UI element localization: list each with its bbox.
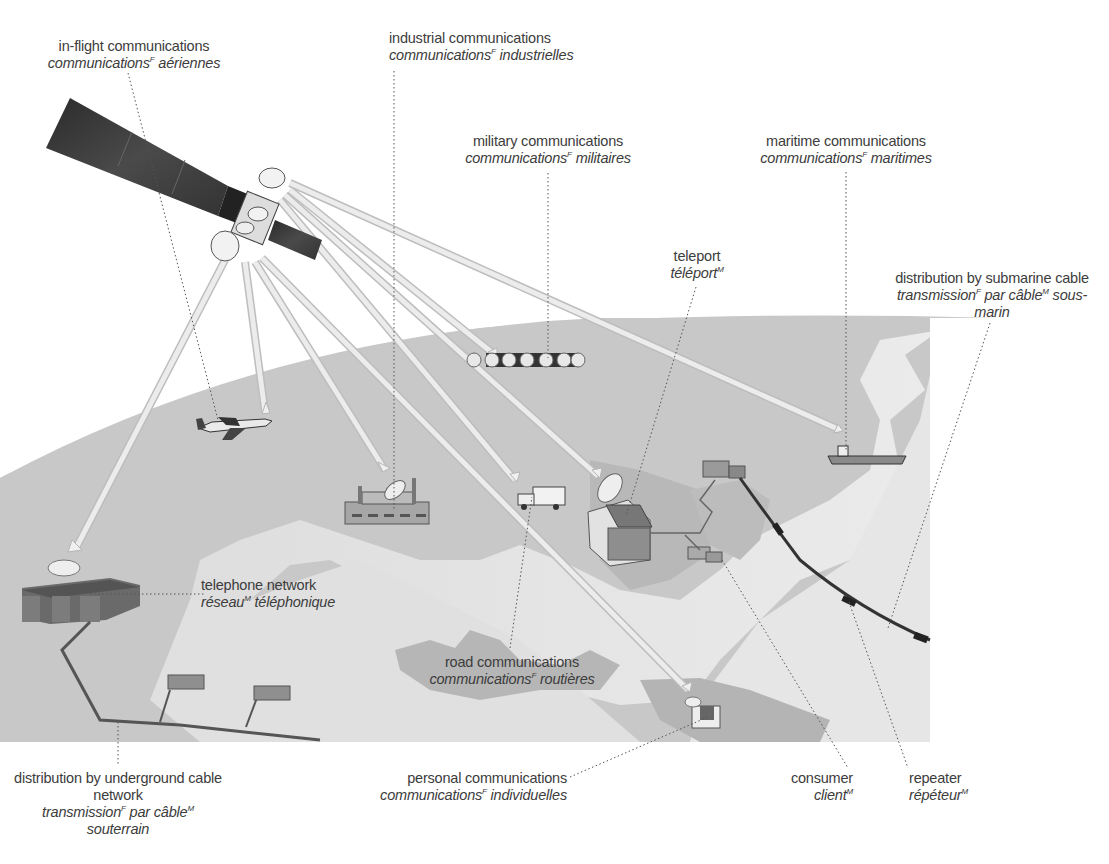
label-teleport: teleport téléportM	[670, 248, 723, 282]
label-road-communications: road communications communicationsF rout…	[429, 654, 594, 688]
label-telephone-network: telephone network réseauM téléphonique	[201, 577, 335, 611]
label-submarine-cable: distribution by submarine cable transmis…	[895, 270, 1089, 321]
label-in-flight-communications: in-flight communications communicationsF…	[48, 38, 220, 72]
label-consumer: consumer clientM	[791, 770, 853, 804]
label-underground-cable: distribution by underground cable networ…	[14, 770, 222, 838]
label-maritime-communications: maritime communications communicationsF …	[760, 133, 932, 167]
satellite-communications-illustration	[0, 0, 1109, 864]
label-personal-communications: personal communications communicationsF …	[380, 770, 567, 804]
antenna-dish	[259, 168, 285, 188]
label-industrial-communications: industrial communications communications…	[389, 30, 573, 64]
satellite	[46, 98, 322, 261]
solar-panel-left	[46, 98, 228, 216]
label-repeater: repeater répéteurM	[909, 770, 968, 804]
house	[168, 675, 204, 689]
label-military-communications: military communications communicationsF …	[465, 133, 631, 167]
house	[254, 686, 290, 700]
antenna-dish	[211, 231, 239, 261]
